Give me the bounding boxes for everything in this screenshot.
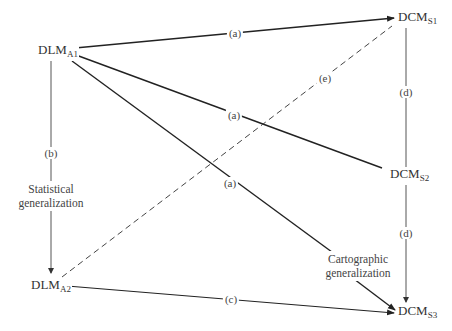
note-line: Cartographic xyxy=(325,252,390,266)
edge-cartographic-s3 xyxy=(354,279,395,310)
edge-label-a-middle: (a) xyxy=(226,109,242,121)
node-dlm-a1: DLMA1 xyxy=(37,43,79,61)
node-subscript: A2 xyxy=(60,284,71,294)
node-label: DCM xyxy=(390,166,420,181)
cartographic-generalization-note: Cartographic generalization xyxy=(323,251,392,281)
node-subscript: S1 xyxy=(428,16,438,26)
note-line: generalization xyxy=(18,196,83,210)
edge-a1-s3 xyxy=(72,61,336,255)
node-subscript: S2 xyxy=(420,173,430,183)
edge-label-b: (b) xyxy=(43,147,60,159)
generalization-diagram: DLMA1 DLMA2 DCMS1 DCMS2 DCMS3 (a) (a) (a… xyxy=(0,0,452,331)
edge-label-d-lower: (d) xyxy=(398,227,415,239)
node-dcm-s3: DCMS3 xyxy=(397,304,438,322)
node-label: DLM xyxy=(38,42,67,57)
edge-label-e: (e) xyxy=(317,72,333,84)
node-label: DCM xyxy=(398,9,428,24)
node-dlm-a2: DLMA2 xyxy=(30,278,72,296)
edge-label-a-top: (a) xyxy=(227,27,243,39)
note-line: generalization xyxy=(325,266,390,280)
note-line: Statistical xyxy=(18,182,83,196)
statistical-generalization-note: Statistical generalization xyxy=(16,181,85,211)
node-subscript: A1 xyxy=(67,49,78,59)
node-label: DCM xyxy=(398,303,428,318)
node-dcm-s2: DCMS2 xyxy=(389,167,430,185)
edge-label-d-upper: (d) xyxy=(398,86,415,98)
node-label: DLM xyxy=(31,277,60,292)
edge-a2-s1 xyxy=(62,26,392,277)
edge-label-a-lower: (a) xyxy=(222,177,238,189)
node-dcm-s1: DCMS1 xyxy=(397,10,438,28)
node-subscript: S3 xyxy=(428,310,438,320)
edge-label-c: (c) xyxy=(223,293,239,305)
